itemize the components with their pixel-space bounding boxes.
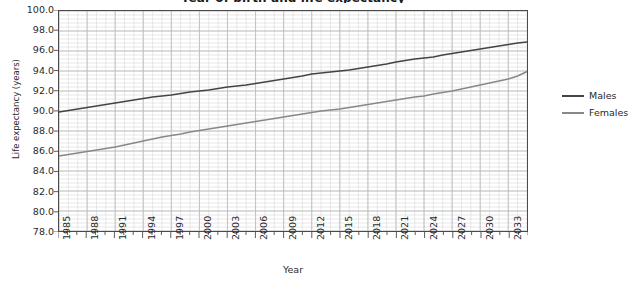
legend-swatch-line-icon bbox=[562, 95, 584, 97]
series-line-females bbox=[59, 72, 527, 157]
x-axis-tick-labels: 1985198819911994199720002003200620092012… bbox=[58, 238, 528, 284]
x-tick-label: 2021 bbox=[400, 216, 410, 240]
x-tick-label: 1985 bbox=[62, 216, 72, 240]
y-tick-label: 88.0 bbox=[2, 126, 54, 136]
x-tick-label: 2024 bbox=[429, 216, 439, 240]
x-axis-title: Year bbox=[58, 264, 528, 275]
chart-legend: MalesFemales bbox=[562, 88, 642, 122]
plot-area bbox=[58, 10, 528, 232]
y-tick-label: 84.0 bbox=[2, 166, 54, 176]
x-tick-label: 2015 bbox=[344, 216, 354, 240]
y-tick-label: 80.0 bbox=[2, 207, 54, 217]
legend-item-males[interactable]: Males bbox=[562, 88, 642, 103]
y-tick-label: 82.0 bbox=[2, 187, 54, 197]
x-tick-label: 2012 bbox=[316, 216, 326, 240]
y-tick-label: 78.0 bbox=[2, 227, 54, 237]
x-tick-label: 1997 bbox=[175, 216, 185, 240]
legend-label: Females bbox=[589, 107, 628, 118]
x-tick-label: 2009 bbox=[288, 216, 298, 240]
x-tick-label: 1991 bbox=[118, 216, 128, 240]
y-tick-label: 96.0 bbox=[2, 45, 54, 55]
legend-item-females[interactable]: Females bbox=[562, 105, 642, 120]
x-tick-label: 2018 bbox=[372, 216, 382, 240]
y-tick-label: 86.0 bbox=[2, 146, 54, 156]
y-tick-label: 92.0 bbox=[2, 86, 54, 96]
x-tick-label: 2006 bbox=[259, 216, 269, 240]
y-tick-label: 90.0 bbox=[2, 106, 54, 116]
legend-swatch-line-icon bbox=[562, 112, 584, 114]
x-tick-label: 2033 bbox=[513, 216, 523, 240]
series-line-males bbox=[59, 42, 527, 112]
chart-title: Year of birth and life expectancy bbox=[58, 0, 528, 3]
x-tick-label: 1988 bbox=[90, 216, 100, 240]
legend-label: Males bbox=[589, 90, 616, 101]
x-tick-label: 2030 bbox=[485, 216, 495, 240]
life-expectancy-line-chart: Year of birth and life expectancy Life e… bbox=[0, 0, 642, 285]
x-tick-label: 1994 bbox=[147, 216, 157, 240]
y-axis-tick-marks bbox=[54, 10, 60, 232]
y-tick-label: 94.0 bbox=[2, 66, 54, 76]
x-tick-label: 2003 bbox=[231, 216, 241, 240]
y-tick-label: 98.0 bbox=[2, 25, 54, 35]
x-tick-label: 2000 bbox=[203, 216, 213, 240]
x-tick-label: 2027 bbox=[457, 216, 467, 240]
y-tick-label: 100.0 bbox=[2, 5, 54, 15]
data-series-lines bbox=[59, 11, 527, 231]
y-axis-tick-labels: 78.080.082.084.086.088.090.092.094.096.0… bbox=[0, 10, 54, 232]
